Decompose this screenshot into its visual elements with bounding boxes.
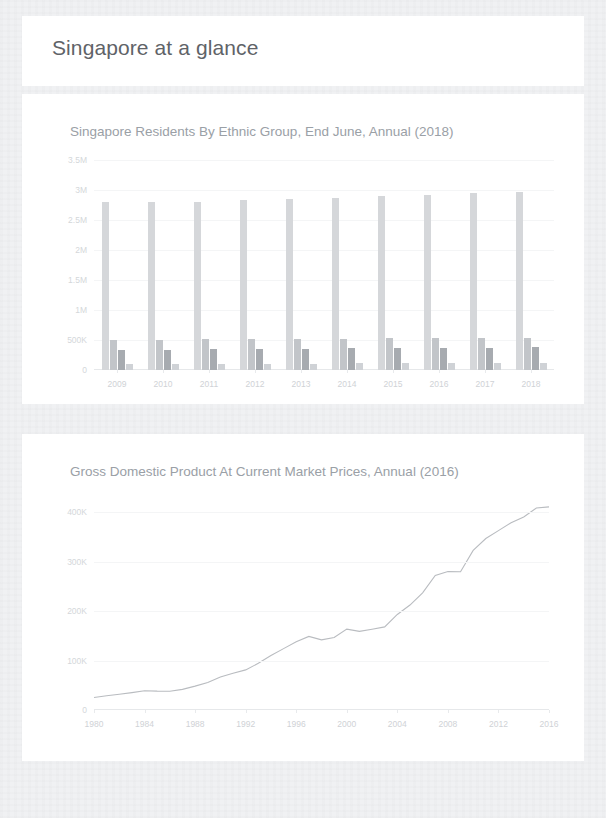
- x-axis-tick-mark: [246, 710, 247, 713]
- bar-group[interactable]: [278, 160, 324, 370]
- gridline: [94, 512, 549, 513]
- gridline: [94, 611, 549, 612]
- bar-chinese[interactable]: [470, 193, 477, 370]
- y-axis-tick-label: 200K: [67, 606, 87, 616]
- x-axis-tick-mark: [117, 370, 118, 373]
- bar-indians[interactable]: [164, 350, 171, 370]
- x-axis-tick-label: 2017: [476, 379, 495, 389]
- page-title: Singapore at a glance: [52, 36, 258, 60]
- x-axis-tick-label: 2010: [154, 379, 173, 389]
- x-axis-tick-mark: [296, 710, 297, 713]
- x-axis-tick-mark: [145, 710, 146, 713]
- bar-chinese[interactable]: [332, 198, 339, 371]
- bar-chinese[interactable]: [516, 192, 523, 370]
- bar-malays[interactable]: [478, 338, 485, 370]
- x-axis-tick-label: 2009: [108, 379, 127, 389]
- bar-chinese[interactable]: [240, 200, 247, 370]
- bar-others[interactable]: [310, 364, 317, 370]
- y-axis-tick-label: 2M: [75, 245, 87, 255]
- x-axis-tick-label: 1996: [287, 719, 306, 729]
- bar-others[interactable]: [126, 364, 133, 370]
- bar-others[interactable]: [218, 364, 225, 370]
- x-axis-tick-mark: [393, 370, 394, 373]
- bar-chart-plot-area[interactable]: 3.5M3M2.5M2M1.5M1M500K020092010201120122…: [94, 160, 554, 370]
- bar-malays[interactable]: [202, 339, 209, 370]
- y-axis-tick-label: 300K: [67, 557, 87, 567]
- gdp-series-line: [94, 507, 549, 698]
- x-axis-tick-mark: [397, 710, 398, 713]
- chart-title-residents: Singapore Residents By Ethnic Group, End…: [70, 122, 540, 142]
- x-axis-tick-label: 2000: [337, 719, 356, 729]
- x-axis-tick-label: 2013: [292, 379, 311, 389]
- x-axis-tick-label: 2014: [338, 379, 357, 389]
- bar-indians[interactable]: [440, 348, 447, 370]
- gridline: [94, 661, 549, 662]
- chart-card-residents: Singapore Residents By Ethnic Group, End…: [22, 94, 584, 404]
- bar-group[interactable]: [508, 160, 554, 370]
- bar-indians[interactable]: [532, 347, 539, 370]
- bar-indians[interactable]: [486, 348, 493, 370]
- bar-group[interactable]: [324, 160, 370, 370]
- bar-malays[interactable]: [524, 338, 531, 370]
- x-axis-tick-mark: [347, 710, 348, 713]
- bar-chinese[interactable]: [286, 199, 293, 370]
- bar-indians[interactable]: [118, 350, 125, 370]
- bar-others[interactable]: [264, 364, 271, 370]
- bar-group[interactable]: [94, 160, 140, 370]
- bar-group[interactable]: [462, 160, 508, 370]
- x-axis-tick-label: 2015: [384, 379, 403, 389]
- bar-malays[interactable]: [386, 338, 393, 370]
- y-axis-tick-label: 1M: [75, 305, 87, 315]
- chart-title-gdp: Gross Domestic Product At Current Market…: [70, 462, 540, 482]
- x-axis-tick-label: 2016: [430, 379, 449, 389]
- x-axis-tick-label: 2011: [200, 379, 218, 389]
- x-axis-tick-label: 2016: [540, 719, 559, 729]
- line-chart-plot-area[interactable]: 400K300K200K100K019801984198819921996200…: [94, 512, 549, 710]
- bar-malays[interactable]: [340, 339, 347, 371]
- y-axis-tick-label: 0: [82, 705, 87, 715]
- bar-chinese[interactable]: [102, 202, 109, 370]
- bar-others[interactable]: [448, 363, 455, 370]
- y-axis-tick-label: 3M: [75, 185, 87, 195]
- bar-malays[interactable]: [156, 340, 163, 370]
- bar-others[interactable]: [356, 363, 363, 370]
- bar-indians[interactable]: [256, 349, 263, 370]
- x-axis-tick-label: 1984: [135, 719, 154, 729]
- bar-others[interactable]: [540, 363, 547, 370]
- bar-indians[interactable]: [302, 349, 309, 370]
- bar-chinese[interactable]: [148, 202, 155, 370]
- bar-malays[interactable]: [248, 339, 255, 370]
- x-axis-tick-mark: [209, 370, 210, 373]
- x-axis-tick-label: 2018: [522, 379, 541, 389]
- bar-group[interactable]: [140, 160, 186, 370]
- bar-indians[interactable]: [210, 349, 217, 370]
- x-axis-tick-mark: [531, 370, 532, 373]
- x-axis-tick-mark: [347, 370, 348, 373]
- bar-malays[interactable]: [432, 338, 439, 370]
- bar-indians[interactable]: [348, 348, 355, 370]
- header-card: Singapore at a glance: [22, 16, 584, 86]
- y-axis-tick-label: 0: [82, 365, 87, 375]
- x-axis-tick-mark: [195, 710, 196, 713]
- bar-indians[interactable]: [394, 348, 401, 370]
- bar-others[interactable]: [494, 363, 501, 370]
- bar-others[interactable]: [402, 363, 409, 370]
- bar-group[interactable]: [232, 160, 278, 370]
- bar-group[interactable]: [370, 160, 416, 370]
- bar-malays[interactable]: [294, 339, 301, 370]
- y-axis-tick-label: 500K: [67, 335, 87, 345]
- x-axis-tick-label: 2008: [438, 719, 457, 729]
- bar-chinese[interactable]: [424, 195, 431, 370]
- x-axis-tick-label: 1988: [186, 719, 205, 729]
- dashboard-container: Singapore at a glance Singapore Resident…: [22, 16, 584, 761]
- bar-others[interactable]: [172, 364, 179, 370]
- bar-malays[interactable]: [110, 340, 117, 370]
- bar-group[interactable]: [416, 160, 462, 370]
- x-axis-tick-mark: [485, 370, 486, 373]
- bar-chinese[interactable]: [378, 196, 385, 370]
- bar-group[interactable]: [186, 160, 232, 370]
- x-axis-tick-mark: [439, 370, 440, 373]
- x-axis-tick-mark: [301, 370, 302, 373]
- chart-card-gdp: Gross Domestic Product At Current Market…: [22, 434, 584, 761]
- bar-chinese[interactable]: [194, 202, 201, 370]
